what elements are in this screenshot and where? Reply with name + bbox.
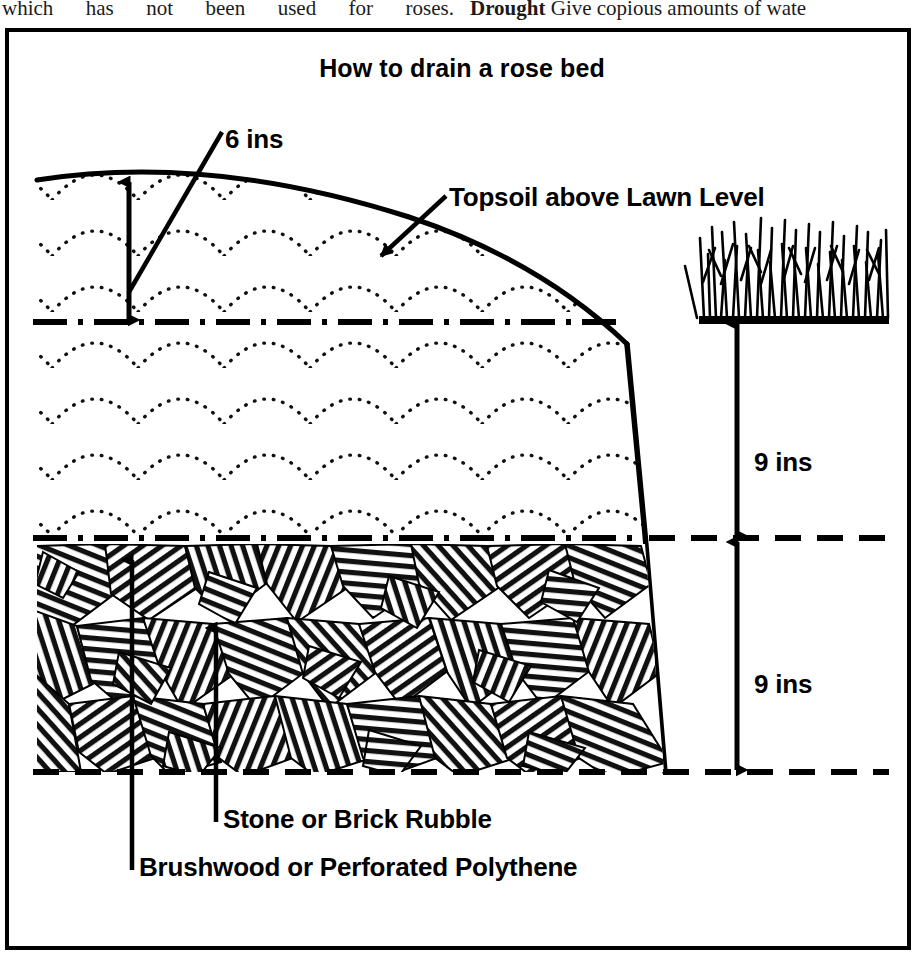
label-9ins-rubble: 9 ins bbox=[754, 669, 812, 700]
figure-frame: How to drain a rose bed bbox=[5, 28, 911, 950]
page-text-right-bold-lead: Drought bbox=[470, 0, 545, 20]
label-brushwood-or-perforated-polythene: Brushwood or Perforated Polythene bbox=[139, 852, 577, 883]
label-topsoil-above-lawn-level: Topsoil above Lawn Level bbox=[449, 182, 764, 213]
rubble-drainage-layer bbox=[33, 538, 673, 778]
page-text-right-fragment: Give copious amounts of wate bbox=[551, 0, 806, 20]
lawn-turf bbox=[685, 218, 889, 324]
page-text-left-fragment: whichhasnotbeenusedforroses. bbox=[2, 0, 454, 20]
page-text-right-column: Drought Give copious amounts of wate bbox=[470, 0, 917, 20]
page-text-left-column: whichhasnotbeenusedforroses. bbox=[2, 0, 454, 20]
book-page-text-bleed: whichhasnotbeenusedforroses. Drought Giv… bbox=[0, 0, 917, 22]
label-6ins: 6 ins bbox=[225, 124, 283, 155]
label-9ins-topsoil: 9 ins bbox=[754, 447, 812, 478]
grass-blades-icon bbox=[685, 218, 888, 318]
label-stone-or-brick-rubble: Stone or Brick Rubble bbox=[223, 804, 492, 835]
